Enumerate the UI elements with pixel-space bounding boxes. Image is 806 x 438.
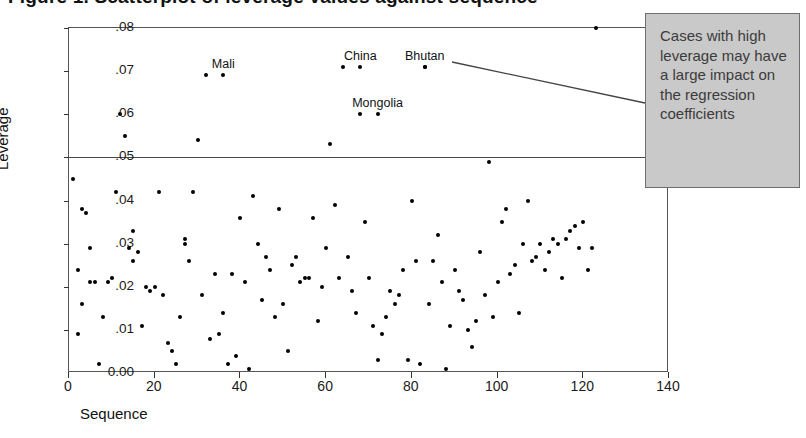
y-tick-label: .01	[74, 321, 134, 336]
data-point	[573, 224, 577, 228]
data-point	[213, 272, 217, 276]
y-tick-mark	[64, 114, 69, 115]
data-point	[543, 268, 547, 272]
data-point	[367, 276, 371, 280]
x-tick-label: 80	[391, 378, 431, 394]
page-title: Figure 1. Scatterplot of leverage values…	[8, 0, 538, 8]
x-tick-mark	[68, 372, 69, 378]
data-point	[247, 367, 251, 371]
data-point	[101, 315, 105, 319]
data-point	[76, 268, 80, 272]
data-point	[136, 250, 140, 254]
data-point	[504, 207, 508, 211]
data-point-labeled	[423, 65, 427, 69]
data-point	[388, 289, 392, 293]
point-label-mali: Mali	[212, 57, 235, 71]
x-tick-mark	[239, 372, 240, 378]
data-point	[401, 268, 405, 272]
data-point	[268, 268, 272, 272]
data-point	[294, 255, 298, 259]
data-point	[414, 259, 418, 263]
data-point	[547, 250, 551, 254]
data-point	[526, 199, 530, 203]
data-point	[243, 280, 247, 284]
data-point	[84, 211, 88, 215]
data-point	[208, 337, 212, 341]
y-tick-mark	[64, 157, 69, 158]
data-point	[556, 242, 560, 246]
data-point	[436, 233, 440, 237]
data-point	[474, 319, 478, 323]
data-point	[406, 358, 410, 362]
data-point	[393, 302, 397, 306]
data-point	[273, 315, 277, 319]
data-point	[320, 285, 324, 289]
annotation-callout-text: Cases with high leverage may have a larg…	[660, 26, 789, 124]
data-point	[217, 332, 221, 336]
data-point	[487, 160, 491, 164]
data-point	[376, 358, 380, 362]
y-tick-label: .07	[74, 62, 134, 77]
data-point	[226, 362, 230, 366]
data-point	[358, 112, 362, 116]
data-point-labeled	[376, 112, 380, 116]
data-point	[311, 216, 315, 220]
data-point	[140, 324, 144, 328]
x-tick-label: 60	[305, 378, 345, 394]
data-point	[440, 280, 444, 284]
data-point	[170, 349, 174, 353]
x-tick-mark	[411, 372, 412, 378]
data-point	[453, 268, 457, 272]
y-tick-label: .05	[74, 148, 134, 163]
data-point	[478, 250, 482, 254]
y-tick-label: .06	[74, 105, 134, 120]
x-tick-mark	[154, 372, 155, 378]
y-tick-label: .03	[74, 235, 134, 250]
x-tick-label: 140	[648, 378, 688, 394]
data-point	[568, 229, 572, 233]
data-point	[594, 26, 598, 30]
data-point	[157, 190, 161, 194]
data-point	[234, 354, 238, 358]
data-point	[153, 285, 157, 289]
data-point	[131, 259, 135, 263]
data-point	[538, 242, 542, 246]
data-point	[431, 259, 435, 263]
data-point	[166, 341, 170, 345]
data-point	[466, 328, 470, 332]
data-point	[517, 311, 521, 315]
y-tick-mark	[64, 244, 69, 245]
y-tick-mark	[64, 201, 69, 202]
data-point	[178, 315, 182, 319]
data-point	[397, 293, 401, 297]
data-point	[337, 276, 341, 280]
data-point	[496, 280, 500, 284]
data-point-labeled	[358, 65, 362, 69]
x-tick-mark	[325, 372, 326, 378]
data-point	[418, 362, 422, 366]
data-point	[491, 315, 495, 319]
data-point	[444, 367, 448, 371]
data-point	[470, 345, 474, 349]
data-point	[508, 272, 512, 276]
x-tick-label: 40	[219, 378, 259, 394]
data-point	[530, 259, 534, 263]
y-tick-label: .08	[74, 19, 134, 34]
x-tick-mark	[582, 372, 583, 378]
x-tick-label: 0	[48, 378, 88, 394]
data-point	[80, 302, 84, 306]
data-point	[123, 134, 127, 138]
data-point	[350, 289, 354, 293]
data-point	[586, 268, 590, 272]
data-point	[324, 246, 328, 250]
data-point	[238, 216, 242, 220]
data-point	[483, 293, 487, 297]
data-point	[307, 276, 311, 280]
data-point	[260, 298, 264, 302]
data-point	[161, 293, 165, 297]
point-label-mongolia: Mongolia	[352, 96, 403, 110]
data-point	[187, 259, 191, 263]
data-point	[328, 142, 332, 146]
x-tick-label: 20	[134, 378, 174, 394]
x-axis-title: Sequence	[80, 405, 148, 422]
